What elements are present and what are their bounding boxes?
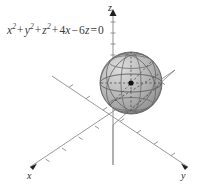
sphere-center-dot [128,80,133,85]
eq-equals: = [89,24,98,36]
eq-minus-1: − [70,24,79,36]
z-axis-label: z [108,2,112,13]
y-axis-label: y [181,170,185,181]
x-axis-label: x [27,170,31,181]
eq-plus-1: + [16,24,25,36]
equation-label: x2+y2+z2+4x−6z=0 [7,24,104,36]
eq-rhs: 0 [98,24,104,36]
